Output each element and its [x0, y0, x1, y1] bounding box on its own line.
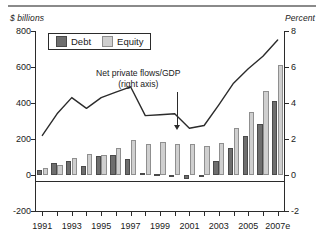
net-private-flows-line — [35, 31, 285, 211]
x-tick — [219, 211, 220, 216]
x-tick — [86, 211, 87, 216]
right-tick — [285, 139, 289, 140]
x-tick — [278, 211, 279, 216]
x-tick — [234, 211, 235, 216]
x-tick-label: 2005 — [238, 221, 258, 231]
plot-area — [35, 31, 285, 211]
x-tick-label: 1999 — [150, 221, 170, 231]
x-tick — [131, 211, 132, 216]
legend-item-equity: Equity — [102, 36, 143, 47]
left-tick-label: 400 — [16, 98, 31, 108]
right-tick — [285, 175, 289, 176]
right-tick — [285, 211, 289, 212]
x-tick — [57, 211, 58, 216]
legend-item-debt: Debt — [56, 36, 91, 47]
right-tick-label: 6 — [291, 62, 296, 72]
right-tick-label: 8 — [291, 26, 296, 36]
x-tick — [263, 211, 264, 216]
annotation-line-1: Net private flows/GDP — [96, 68, 181, 79]
annotation-arrow-shaft — [177, 92, 178, 127]
line-annotation: Net private flows/GDP (right axis) — [96, 68, 181, 89]
left-tick-label: 800 — [16, 26, 31, 36]
x-tick — [160, 211, 161, 216]
right-tick-label: 4 — [291, 98, 296, 108]
left-tick-label: 0 — [26, 170, 31, 180]
right-tick — [285, 103, 289, 104]
x-tick-label: 2001 — [179, 221, 199, 231]
x-tick — [116, 211, 117, 216]
chart-figure: $ billions Percent 8006004002000-200 864… — [0, 0, 324, 246]
x-tick-label: 1991 — [32, 221, 52, 231]
x-tick-label: 2003 — [209, 221, 229, 231]
right-tick — [285, 31, 289, 32]
legend-swatch-debt — [56, 36, 67, 47]
x-tick-label: 1993 — [62, 221, 82, 231]
right-axis-unit-label: Percent — [285, 13, 315, 23]
left-axis-unit-label: $ billions — [10, 13, 44, 23]
x-tick-label: 2007e — [265, 221, 290, 231]
right-tick — [285, 67, 289, 68]
x-tick — [204, 211, 205, 216]
x-tick-label: 1997 — [121, 221, 141, 231]
annotation-arrow-head — [174, 125, 180, 130]
left-tick — [31, 211, 35, 212]
right-tick-label: 2 — [291, 134, 296, 144]
chart-legend: Debt Equity — [48, 33, 151, 50]
legend-label-debt: Debt — [71, 36, 91, 47]
left-tick-label: 200 — [16, 134, 31, 144]
right-tick-label: -2 — [291, 206, 299, 216]
annotation-line-2: (right axis) — [96, 79, 181, 90]
x-tick — [42, 211, 43, 216]
x-tick — [145, 211, 146, 216]
x-tick — [248, 211, 249, 216]
x-tick — [189, 211, 190, 216]
x-tick — [101, 211, 102, 216]
x-tick — [175, 211, 176, 216]
legend-label-equity: Equity — [117, 36, 143, 47]
top-divider — [8, 5, 316, 7]
legend-swatch-equity — [102, 36, 113, 47]
x-tick-label: 1995 — [91, 221, 111, 231]
left-tick-label: -200 — [13, 206, 31, 216]
left-tick-label: 600 — [16, 62, 31, 72]
right-tick-label: 0 — [291, 170, 296, 180]
x-tick — [72, 211, 73, 216]
